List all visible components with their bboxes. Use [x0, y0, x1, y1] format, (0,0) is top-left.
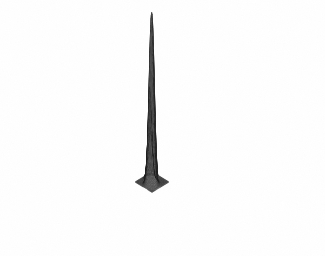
surface-plot-canvas	[0, 0, 325, 256]
plot-background	[0, 0, 325, 256]
figure-root: the mesh surface of a bivariatefunction …	[0, 0, 325, 256]
